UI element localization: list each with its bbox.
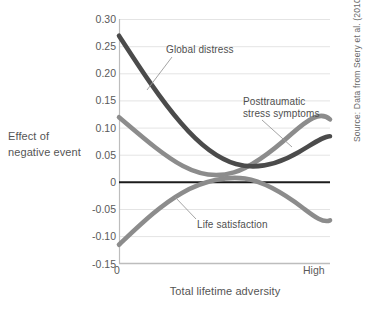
series-line-life-satisfaction bbox=[119, 178, 330, 245]
y-tick-1: 0.25 bbox=[80, 41, 116, 51]
y-axis-title-line2: negative event bbox=[8, 144, 108, 160]
series-label-global-distress: Global distress bbox=[166, 44, 234, 56]
x-tick-right: High bbox=[303, 264, 325, 276]
leader-line-ptss bbox=[262, 120, 292, 147]
series-label-ptss: Posttraumatic stress symptoms bbox=[243, 96, 320, 120]
y-tick-6: 0 bbox=[80, 177, 116, 187]
series-label-life-satisfaction: Life satisfaction bbox=[197, 219, 268, 231]
y-tick-9: -0.15 bbox=[80, 259, 116, 269]
y-tick-7: -0.05 bbox=[80, 204, 116, 214]
source-note: Source: Data from Seery et al. (2010). bbox=[352, 0, 362, 142]
y-tick-8: -0.10 bbox=[80, 231, 116, 241]
series-line-ptss bbox=[119, 116, 330, 175]
y-tick-2: 0.20 bbox=[80, 68, 116, 78]
y-tick-0: 0.30 bbox=[80, 14, 116, 24]
series-label-ptss-line1: Posttraumatic bbox=[243, 96, 320, 108]
series-label-ptss-line2: stress symptoms bbox=[243, 108, 320, 120]
y-tick-3: 0.15 bbox=[80, 95, 116, 105]
leader-line-life-satisfaction bbox=[175, 197, 196, 219]
y-axis-tick-labels: 0.30 0.25 0.20 0.15 0.10 0.05 0 -0.05 -0… bbox=[78, 0, 116, 321]
x-axis-title: Total lifetime adversity bbox=[119, 285, 331, 297]
chart-figure: 0.30 0.25 0.20 0.15 0.10 0.05 0 -0.05 -0… bbox=[0, 0, 373, 321]
y-axis-title-line1: Effect of bbox=[8, 128, 108, 144]
y-axis-title: Effect of negative event bbox=[8, 128, 108, 160]
x-tick-left: 0 bbox=[114, 264, 120, 276]
